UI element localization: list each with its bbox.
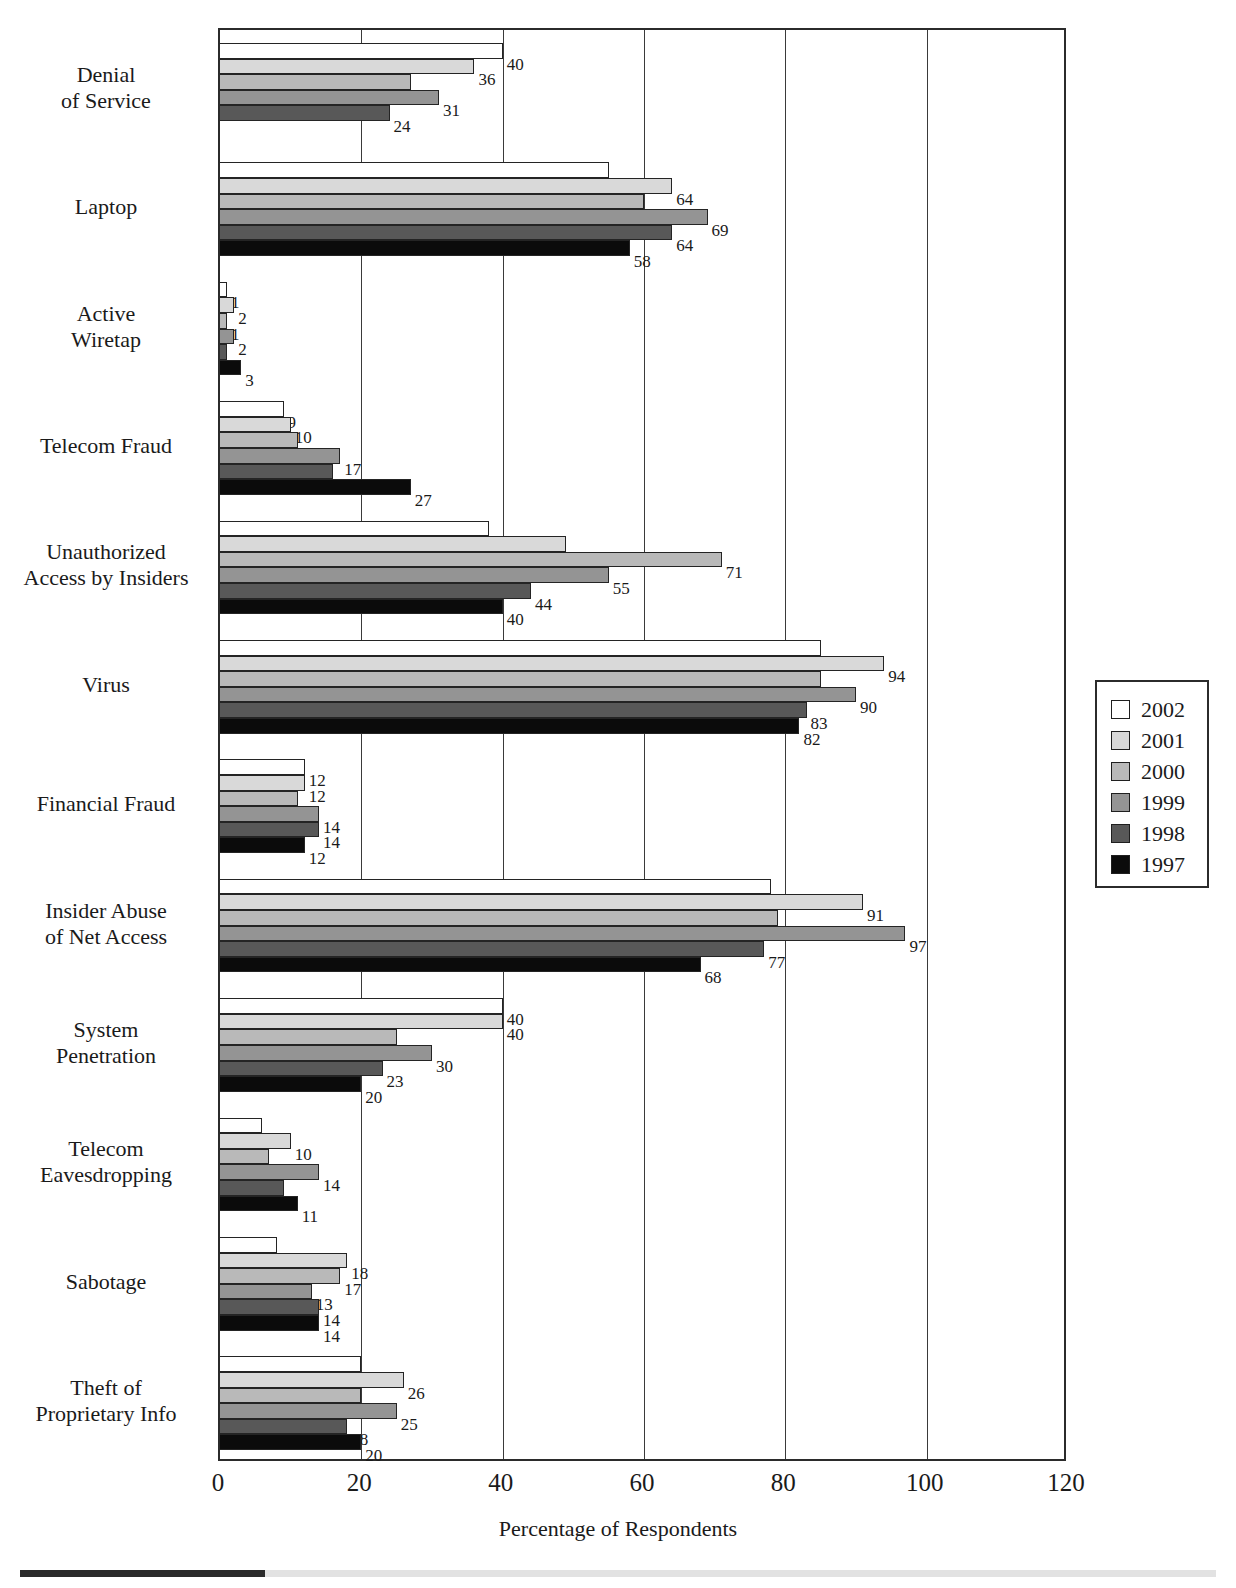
legend-swatch-icon [1111, 731, 1130, 750]
legend-label: 1999 [1141, 792, 1185, 814]
category-label-line: System [2, 1017, 210, 1043]
bar-value-label: 69 [708, 222, 729, 239]
bar [220, 1403, 397, 1419]
bar-value-label: 40 [503, 611, 524, 628]
bar [220, 1118, 262, 1134]
bar-value-label: 25 [397, 1416, 418, 1433]
bar [220, 178, 672, 194]
bar-value-label: 31 [439, 102, 460, 119]
bar [220, 1196, 298, 1212]
category-label-line: Proprietary Info [2, 1401, 210, 1427]
legend: 200220012000199919981997 [1095, 680, 1209, 888]
bar [220, 879, 771, 895]
bar [220, 464, 333, 480]
bar [220, 448, 340, 464]
bar [220, 536, 566, 552]
bar [220, 344, 227, 360]
category-label-line: Denial [2, 62, 210, 88]
legend-item[interactable]: 1998 [1111, 818, 1207, 849]
bar-value-label: 24 [390, 118, 411, 135]
bar-value-label: 64 [672, 191, 693, 208]
bar [220, 926, 905, 942]
category-label-line: Wiretap [2, 327, 210, 353]
bar [220, 59, 474, 75]
bar [220, 1284, 312, 1300]
bar [220, 1029, 397, 1045]
bar [220, 1434, 361, 1450]
bar [220, 822, 319, 838]
bar [220, 1299, 319, 1315]
bar-group: 91011171627 [220, 388, 1064, 507]
legend-item[interactable]: 2000 [1111, 756, 1207, 787]
category-axis-labels: Denialof ServiceLaptopActiveWiretapTelec… [0, 28, 210, 1461]
bar-value-label: 68 [701, 969, 722, 986]
bar [220, 521, 489, 537]
bar [220, 894, 863, 910]
x-tick-label: 40 [488, 1470, 513, 1495]
bar-group: 202620251820 [220, 1344, 1064, 1463]
bar [220, 74, 411, 90]
bar [220, 806, 319, 822]
bar-value-label: 20 [361, 1447, 382, 1464]
bar [220, 297, 234, 313]
category-label-line: of Net Access [2, 924, 210, 950]
bar [220, 360, 241, 376]
legend-label: 2002 [1141, 699, 1185, 721]
bar-group: 556460696458 [220, 149, 1064, 268]
bar [220, 599, 503, 615]
category-label-line: Financial Fraud [2, 791, 210, 817]
category-label-line: Eavesdropping [2, 1162, 210, 1188]
bar [220, 313, 227, 329]
bar [220, 583, 531, 599]
legend-item[interactable]: 1997 [1111, 849, 1207, 880]
category-label-line: of Service [2, 88, 210, 114]
category-label-line: Theft of [2, 1375, 210, 1401]
bar-value-label: 36 [474, 71, 495, 88]
page-edge-strip-dark [20, 1570, 265, 1577]
legend-item[interactable]: 2001 [1111, 725, 1207, 756]
bar [220, 432, 298, 448]
bar [220, 479, 411, 495]
bar-value-label: 97 [905, 938, 926, 955]
bar [220, 329, 234, 345]
bar-group: 81817131414 [220, 1224, 1064, 1343]
category-label: UnauthorizedAccess by Insiders [2, 539, 210, 591]
bar [220, 282, 227, 298]
x-tick-label: 20 [347, 1470, 372, 1495]
legend-item[interactable]: 1999 [1111, 787, 1207, 818]
legend-swatch-icon [1111, 855, 1130, 874]
category-label-line: Telecom Fraud [2, 433, 210, 459]
legend-label: 1997 [1141, 854, 1185, 876]
category-label: Sabotage [2, 1269, 210, 1295]
bar-value-label: 10 [291, 1146, 312, 1163]
bar [220, 1180, 284, 1196]
bar-value-label: 14 [319, 1328, 340, 1345]
bar [220, 105, 390, 121]
category-label: Laptop [2, 194, 210, 220]
bar-value-label: 26 [404, 1385, 425, 1402]
category-label-line: Virus [2, 672, 210, 698]
category-label-line: Laptop [2, 194, 210, 220]
bar [220, 941, 764, 957]
legend-label: 1998 [1141, 823, 1185, 845]
bar-value-label: 71 [722, 564, 743, 581]
bar-value-label: 40 [503, 1026, 524, 1043]
category-label-line: Insider Abuse [2, 898, 210, 924]
bar [220, 998, 503, 1014]
bar [220, 687, 856, 703]
bar [220, 957, 701, 973]
bar-value-label: 14 [319, 1177, 340, 1194]
legend-item[interactable]: 2002 [1111, 694, 1207, 725]
bar-value-label: 58 [630, 253, 651, 270]
legend-label: 2001 [1141, 730, 1185, 752]
category-label: SystemPenetration [2, 1017, 210, 1069]
bar-value-label: 12 [305, 850, 326, 867]
bar [220, 1061, 383, 1077]
bar-group: 121213 [220, 269, 1064, 388]
bar-group: 384971554440 [220, 508, 1064, 627]
bar-group: 859485908382 [220, 627, 1064, 746]
bar [220, 1164, 319, 1180]
category-label-line: Penetration [2, 1043, 210, 1069]
bar [220, 1372, 404, 1388]
plot-area: 4036273124556460696458121213910111716273… [218, 28, 1066, 1461]
